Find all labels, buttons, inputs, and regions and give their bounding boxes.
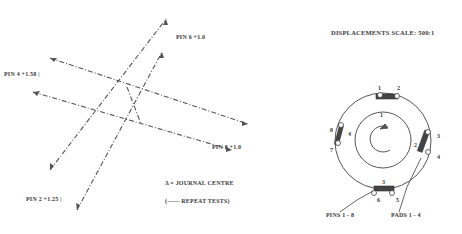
pin-8 bbox=[339, 123, 344, 128]
pin2-locus-line bbox=[77, 52, 162, 210]
pin4-locus-line bbox=[50, 58, 248, 124]
pad-number-2: 2 bbox=[414, 142, 417, 148]
legend-repeat-tests: (—— REPEAT TESTS) bbox=[165, 198, 230, 204]
pin-1 bbox=[378, 93, 383, 98]
journal-centre-path bbox=[127, 87, 141, 124]
pin-number-5: 5 bbox=[396, 197, 399, 203]
pin6-locus-line bbox=[50, 19, 166, 170]
journal-centre-marker bbox=[50, 58, 57, 62]
journal-centre-marker bbox=[50, 163, 54, 170]
pin4-label: PIN 4 +1.58 | bbox=[4, 71, 40, 77]
journal-circle bbox=[355, 112, 411, 168]
pin2-label: PIN 2 +1.25 | bbox=[26, 196, 62, 202]
displacement-scale-title: DISPLACEMENTS SCALE: 500:1 bbox=[331, 29, 434, 36]
pin-number-3: 3 bbox=[437, 133, 440, 139]
pin-number-4: 4 bbox=[437, 154, 440, 160]
journal-centre-marker bbox=[159, 52, 164, 58]
pin-3 bbox=[426, 130, 431, 135]
pad-number-1: 1 bbox=[380, 112, 383, 118]
pin-number-8: 8 bbox=[330, 127, 333, 133]
journal-centre-marker bbox=[163, 19, 168, 25]
pins-callout-label: PINS 1 - 8 bbox=[326, 212, 354, 218]
pin6-label: PIN 6 +1.0 bbox=[176, 34, 205, 40]
pin-5 bbox=[390, 191, 395, 196]
pin-number-2: 2 bbox=[397, 85, 400, 91]
pin-4 bbox=[426, 150, 431, 155]
bearing-outer-circle bbox=[335, 93, 431, 189]
pad-number-3: 3 bbox=[382, 179, 385, 185]
pads-callout-label: PADS 1 - 4 bbox=[391, 212, 421, 218]
pin-2 bbox=[395, 94, 400, 99]
pin-7 bbox=[336, 141, 341, 146]
pin-number-1: 1 bbox=[378, 85, 381, 91]
pin8-label: PIN 8 +1.0 bbox=[212, 144, 241, 150]
pin-number-7: 7 bbox=[330, 147, 333, 153]
pad-3 bbox=[374, 186, 394, 191]
rotation-arrow-icon bbox=[370, 126, 390, 152]
legend-journal-centre: Δ = JOURNAL CENTRE bbox=[165, 180, 234, 186]
pin-number-6: 6 bbox=[377, 197, 380, 203]
pins-callout-leader bbox=[340, 191, 373, 212]
pad-number-4: 4 bbox=[348, 131, 351, 137]
